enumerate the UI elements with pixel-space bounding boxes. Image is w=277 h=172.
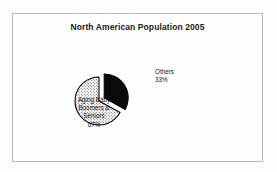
chart-frame: North American Population 2005 Others 33… (12, 13, 263, 162)
pie-data-label-aging-baby-boomers-seniors: Aging Baby Boomers & Seniors 67% (65, 96, 123, 129)
pie-data-label-others-percent: 33% (155, 76, 174, 84)
pie-data-label-boomers-name-line2: Boomers & (65, 104, 123, 112)
pie-data-label-boomers-name-line3: Seniors (65, 112, 123, 120)
pie-data-label-others-name: Others (155, 68, 174, 76)
pie-chart-plot-area: Others 33% Aging Baby Boomers & Seniors … (13, 14, 264, 163)
pie-data-label-boomers-name-line1: Aging Baby (65, 96, 123, 104)
pie-data-label-boomers-percent: 67% (65, 121, 123, 129)
pie-data-label-others: Others 33% (155, 68, 174, 84)
